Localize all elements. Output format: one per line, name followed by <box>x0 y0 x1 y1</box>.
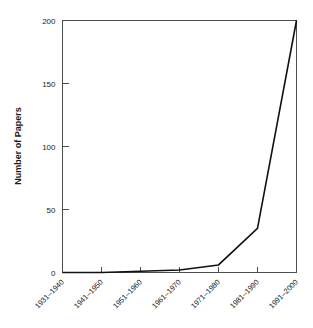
chart-figure: 050100150200 1931–19401941–19501951–1960… <box>0 0 313 328</box>
y-tick-label: 200 <box>42 17 56 26</box>
y-tick-label: 0 <box>51 269 56 278</box>
chart-background <box>0 0 313 328</box>
line-chart: 050100150200 1931–19401941–19501951–1960… <box>0 0 313 328</box>
y-tick-label: 100 <box>42 143 56 152</box>
y-tick-label: 50 <box>47 206 56 215</box>
y-axis-title: Number of Papers <box>13 107 23 185</box>
y-tick-label: 150 <box>42 80 56 89</box>
